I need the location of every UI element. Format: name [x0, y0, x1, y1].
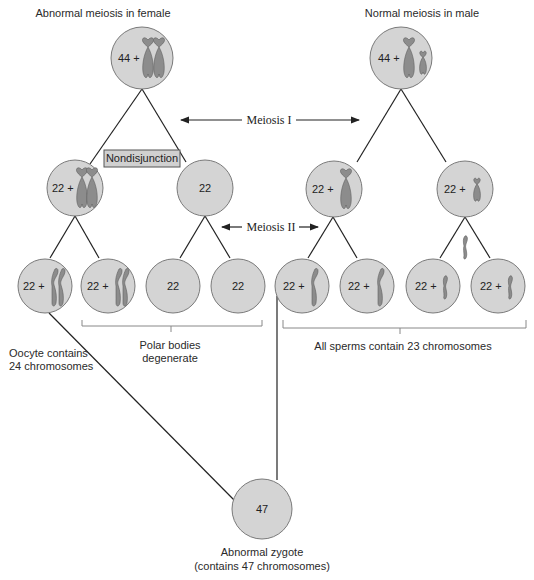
x-chromosome-icon: [142, 38, 153, 78]
cell-label: 22 +: [52, 182, 74, 194]
female-gamete-polar-3: 22: [211, 259, 265, 313]
female-gamete-polar-1: 22 +: [81, 259, 135, 313]
female-secondary-right-cell: 22: [177, 160, 233, 216]
male-secondary-right-cell: 22 +: [437, 161, 493, 217]
x-chromosome-icon: [76, 168, 87, 208]
x-chromosome-icon: [340, 169, 351, 209]
male-gamete-sperm-2: 22 +: [340, 259, 394, 313]
female-gamete-oocyte: 22 +: [18, 259, 72, 313]
male-gamete-sperm-3: 22 +: [406, 259, 460, 313]
cell-label: 22 +: [348, 280, 370, 292]
sperms-bracket: [283, 320, 526, 334]
meiosis-1-indicator: Meiosis I: [181, 113, 359, 127]
cell-label: 44 +: [118, 52, 140, 64]
zygote-cell: 47: [232, 479, 292, 539]
meiosis-diagram: Abnormal meiosis in female Normal meiosi…: [0, 0, 534, 580]
cell-label: 22: [167, 280, 179, 292]
meiosis-2-indicator: Meiosis II: [222, 220, 318, 234]
cell-label: 22 +: [283, 280, 305, 292]
cell-label: 22: [199, 182, 211, 194]
y-chromatid-icon: [463, 236, 467, 259]
male-parent-cell: 44 +: [370, 27, 432, 89]
female-secondary-left-cell: 22 +: [47, 160, 103, 216]
male-secondary-left-cell: 22 +: [306, 161, 362, 217]
polar-bodies-bracket: [82, 320, 262, 332]
meiosis-2-label: Meiosis II: [247, 220, 296, 234]
male-gamete-sperm-4: 22 +: [471, 259, 525, 313]
sperms-label: All sperms contain 23 chromosomes: [314, 340, 492, 352]
polar-bodies-label-line1: Polar bodies: [139, 339, 201, 351]
meiosis-1-label: Meiosis I: [247, 113, 292, 127]
zygote-label-line2: (contains 47 chromosomes): [194, 560, 330, 572]
cell-label: 22 +: [444, 183, 466, 195]
oocyte-label-line2: 24 chromosomes: [9, 360, 94, 372]
male-gamete-sperm-1: 22 +: [275, 259, 329, 313]
zygote-count: 47: [256, 503, 268, 515]
x-chromosome-icon: [153, 38, 164, 78]
female-title: Abnormal meiosis in female: [35, 7, 170, 19]
female-parent-cell: 44 +: [111, 27, 173, 89]
female-gamete-polar-2: 22: [146, 259, 200, 313]
cell-label: 22: [232, 280, 244, 292]
cell-label: 22 +: [480, 280, 502, 292]
cell-label: 22 +: [415, 280, 437, 292]
male-title: Normal meiosis in male: [365, 7, 479, 19]
cell-label: 22 +: [312, 183, 334, 195]
oocyte-label-line1: Oocyte contains: [9, 347, 88, 359]
cell-label: 44 +: [378, 52, 400, 64]
nondisjunction-label-box: Nondisjunction: [104, 150, 180, 167]
y-chromosome-icon: [420, 51, 427, 74]
nondisjunction-text: Nondisjunction: [106, 152, 178, 164]
x-chromosome-icon: [86, 168, 97, 208]
x-chromosome-icon: [403, 38, 414, 78]
polar-bodies-label-line2: degenerate: [142, 352, 198, 364]
zygote-label-line1: Abnormal zygote: [221, 546, 304, 558]
cell-label: 22 +: [87, 280, 109, 292]
cell-label: 22 +: [23, 280, 45, 292]
y-chromosome-icon: [474, 178, 481, 201]
